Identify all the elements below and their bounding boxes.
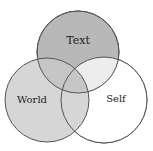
label-world: World [17, 94, 48, 105]
label-self: Self [106, 93, 127, 104]
venn-diagram: Text World Self [0, 0, 153, 151]
label-text: Text [66, 34, 90, 47]
